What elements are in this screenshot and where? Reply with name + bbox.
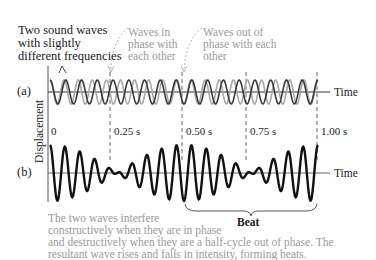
panel-b-label: (b) [17,166,32,179]
tick-025: 0.25 s [114,125,140,138]
time-label-a: Time [334,86,358,98]
tick-lines [110,72,317,160]
annotation-out-of-phase: Waves out of phase with each other [203,26,276,62]
caption-line: resultant wave rises and falls in intens… [48,248,334,260]
pointer-two-waves [59,66,66,73]
caption-line: and destructively when they are a half-c… [48,236,334,248]
annotation-line: phase with [128,38,178,50]
annotation-line: Waves in [128,26,178,38]
caption-line: The two waves interfere [48,212,334,224]
time-label-b: Time [334,167,358,179]
tick-0: 0 [51,125,57,138]
caption-line: constructively when they are in phase [48,224,334,236]
annotation-line: Waves out of [203,26,276,38]
pointer-out-of-phase [184,28,202,70]
annotation-line: each other [128,50,178,62]
tick-075: 0.75 s [250,125,276,138]
y-axis-label: Displacement [33,100,45,163]
tick-050: 0.50 s [186,125,212,138]
annotation-two-waves: Two sound waves with slightly different … [18,24,122,63]
annotation-line: phase with each [203,38,276,50]
annotation-line: other [203,50,276,62]
annotation-line: different frequencies [18,50,122,63]
annotation-in-phase: Waves in phase with each other [128,26,178,62]
tick-100: 1.00 s [321,125,347,138]
panel-a-label: (a) [17,85,31,98]
caption: The two waves interfere constructively w… [48,212,334,260]
